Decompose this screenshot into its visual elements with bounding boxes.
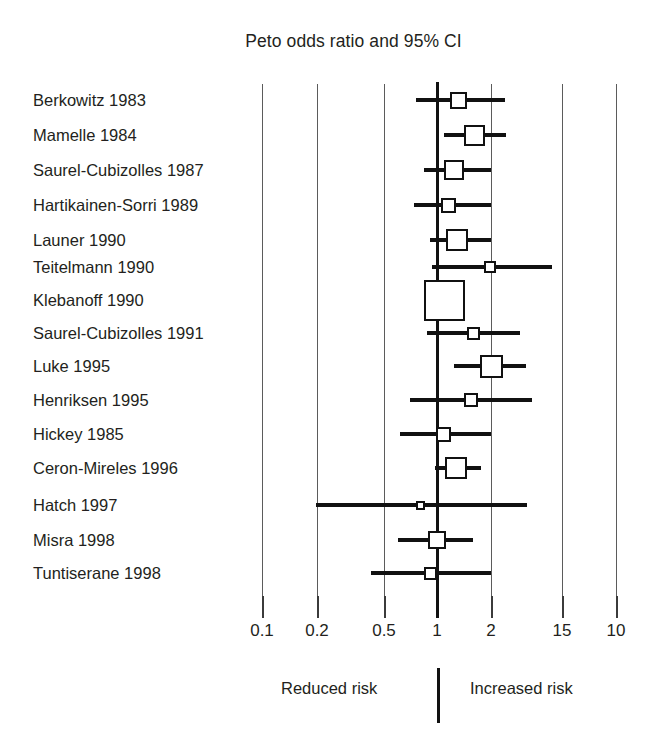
point-estimate-box: [428, 531, 446, 549]
tick-mark-1: [436, 596, 439, 618]
point-estimate-box: [450, 92, 467, 109]
gridline-15: [562, 84, 563, 596]
point-estimate-box: [484, 261, 496, 273]
tick-mark-15: [562, 596, 564, 618]
point-estimate-box: [424, 280, 465, 321]
gridline-0.1: [262, 84, 263, 596]
plot-area: 0.10.20.5121510: [0, 0, 653, 745]
point-estimate-box: [467, 327, 480, 340]
point-estimate-box: [424, 567, 437, 580]
point-estimate-box: [444, 160, 464, 180]
tick-label: 15: [553, 621, 572, 641]
gridline-10: [616, 84, 617, 596]
point-estimate-box: [446, 229, 468, 251]
gridline-1: [436, 82, 439, 598]
increased-risk-label: Increased risk: [470, 679, 573, 698]
gridline-0.2: [317, 84, 318, 596]
point-estimate-box: [445, 457, 467, 479]
point-estimate-box: [436, 427, 451, 442]
point-estimate-box: [464, 393, 478, 407]
reduced-risk-label: Reduced risk: [281, 679, 377, 698]
point-estimate-box: [464, 125, 485, 146]
tick-mark-10: [616, 596, 618, 618]
tick-label: 0.1: [250, 621, 274, 641]
tick-label: 0.2: [305, 621, 329, 641]
point-estimate-box: [480, 355, 503, 378]
point-estimate-box: [416, 501, 425, 510]
tick-label: 10: [607, 621, 626, 641]
tick-mark-2: [491, 596, 493, 618]
forest-plot-figure: Peto odds ratio and 95% CI Berkowitz 198…: [0, 0, 653, 745]
tick-label: 0.5: [372, 621, 396, 641]
point-estimate-box: [441, 198, 456, 213]
tick-mark-0.1: [262, 596, 264, 618]
tick-mark-0.5: [384, 596, 386, 618]
gridline-2: [491, 84, 492, 596]
tick-label: 1: [432, 621, 441, 641]
gridline-0.5: [384, 84, 385, 596]
tick-mark-0.2: [317, 596, 319, 618]
footer-divider: [437, 668, 440, 723]
tick-label: 2: [486, 621, 495, 641]
